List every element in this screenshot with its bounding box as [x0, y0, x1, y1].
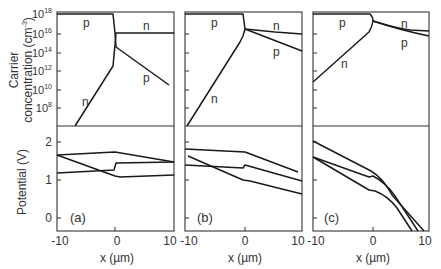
panel-b: p n p n (b) -10 0 10 x (µm): [180, 12, 305, 265]
curve-p-c: [313, 14, 429, 36]
ylabel-potential: Potential (V): [15, 149, 29, 215]
potential-3-b: [188, 156, 302, 194]
svg-text:-10: -10: [307, 234, 325, 248]
potential-3-a: [57, 162, 174, 173]
label-n: n: [341, 57, 348, 71]
curve-p-a: [57, 14, 169, 85]
svg-text:1018: 1018: [32, 7, 52, 20]
figure: Carrier concentration (cm-3) Potential (…: [0, 0, 441, 269]
label-n: n: [211, 92, 218, 106]
label-p: p: [143, 71, 150, 85]
label-p: p: [211, 16, 218, 30]
panel-c: p n p n (c) -10 0 10 x (µm): [307, 12, 432, 265]
xlabel-c: x (µm): [356, 251, 390, 265]
label-p: p: [339, 16, 346, 30]
label-n: n: [82, 95, 89, 109]
label-n: n: [401, 17, 408, 31]
ylabel-carrier-line1: Carrier: [7, 52, 21, 89]
svg-text:1010: 1010: [32, 83, 52, 96]
svg-text:0: 0: [242, 234, 249, 248]
svg-text:1016: 1016: [32, 27, 52, 40]
xlabel-b: x (µm): [228, 251, 262, 265]
potential-1-a: [57, 152, 174, 162]
svg-text:1: 1: [45, 173, 52, 187]
svg-text:-10: -10: [180, 234, 198, 248]
svg-text:0: 0: [370, 234, 377, 248]
xlabel-a: x (µm): [100, 251, 134, 265]
panel-label-a: (a): [70, 210, 86, 225]
svg-text:-10: -10: [51, 234, 69, 248]
label-p: p: [401, 36, 408, 50]
potential-tick-labels: 2 1 0: [45, 135, 52, 225]
svg-text:2: 2: [45, 135, 52, 149]
label-p: p: [83, 16, 90, 30]
label-p: p: [273, 45, 280, 59]
svg-text:10: 10: [418, 234, 432, 248]
curve-n-a: [75, 33, 174, 126]
label-n: n: [273, 19, 280, 33]
svg-text:0: 0: [45, 211, 52, 225]
svg-text:108: 108: [36, 101, 52, 114]
panel-a: p n p n (a) -10 0 10 x (µm): [51, 12, 177, 265]
svg-text:10: 10: [163, 234, 177, 248]
label-n: n: [143, 19, 150, 33]
panel-label-c: (c): [324, 210, 339, 225]
svg-text:1012: 1012: [32, 64, 52, 77]
svg-text:1014: 1014: [32, 46, 52, 59]
panel-label-b: (b): [197, 210, 213, 225]
svg-text:0: 0: [114, 234, 121, 248]
svg-text:10: 10: [291, 234, 305, 248]
curve-n-c: [313, 21, 429, 82]
